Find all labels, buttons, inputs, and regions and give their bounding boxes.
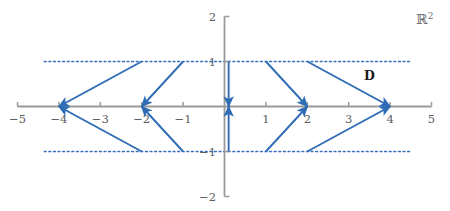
y-tick-label: 1 xyxy=(209,55,216,69)
space-label: ℝ2 xyxy=(416,11,433,27)
arrow-right-inner-lower-arrow xyxy=(266,107,307,152)
x-tick-label: −4 xyxy=(50,112,67,126)
x-tick-label: 2 xyxy=(304,112,311,126)
x-tick-label: −5 xyxy=(9,112,26,126)
arrow-right-outer-upper-arrow xyxy=(307,62,390,107)
x-tick-label: 5 xyxy=(428,112,435,126)
region-label-d: D xyxy=(364,68,375,83)
x-tick-label: −2 xyxy=(133,112,150,126)
x-tick-label: −1 xyxy=(175,112,192,126)
y-tick-label: −2 xyxy=(199,190,216,204)
axis-layer xyxy=(18,17,432,197)
arrow-left-outer-upper-arrow xyxy=(59,62,142,107)
arrow-left-inner-upper-arrow xyxy=(142,62,183,107)
y-tick-label: −1 xyxy=(199,145,216,159)
x-tick-label: 4 xyxy=(386,112,393,126)
x-tick-label: −3 xyxy=(92,112,109,126)
arrow-right-inner-upper-arrow xyxy=(266,62,307,107)
plot-canvas: −5−4−3−2−11234521−1−2 ℝ2 D xyxy=(0,0,450,211)
y-tick-label: 2 xyxy=(209,10,216,24)
x-tick-label: 1 xyxy=(262,112,269,126)
x-tick-label: 3 xyxy=(345,112,352,126)
phase-portrait-figure: −5−4−3−2−11234521−1−2 ℝ2 D xyxy=(0,0,450,211)
